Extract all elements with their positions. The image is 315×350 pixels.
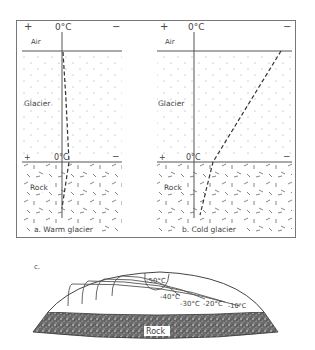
glacier-label: Glacier (158, 99, 185, 108)
zero-top-label: 0°C (188, 22, 205, 32)
minus-sign: − (283, 21, 291, 32)
panel-ice-sheet-cross-section: c. -50°C -40°C -30°C -20°C -10°C Rock (33, 263, 278, 339)
minus-sign: − (112, 21, 120, 32)
minus-bed: − (283, 151, 291, 161)
rock-layer (22, 162, 122, 232)
plus-bed: + (159, 153, 166, 162)
plus-bed: + (24, 153, 31, 162)
zero-top-label: 0°C (55, 22, 72, 32)
isotherm-label-40: -40°C (160, 293, 180, 301)
panel-warm-glacier: + 0°C − Air Glacier + 0°C − Rock a. Warm… (22, 21, 122, 235)
caption-warm: a. Warm glacier (34, 225, 94, 234)
air-label: Air (31, 38, 41, 46)
minus-bed: − (112, 151, 120, 161)
rock-label: Rock (164, 183, 183, 192)
glacier-temperature-figure: + 0°C − Air Glacier + 0°C − Rock a. Warm… (0, 0, 315, 350)
caption-cold: b. Cold glacier (182, 225, 237, 234)
plus-sign: + (160, 21, 168, 32)
panel-cold-glacier: + 0°C − Air Glacier + 0°C − Rock b. Cold… (157, 21, 292, 235)
isotherm-label-10: -10°C (228, 302, 247, 310)
isotherm-label-50: -50°C (146, 277, 166, 285)
isotherm-label-20: -20°C (203, 300, 223, 308)
zero-bed-label: 0°C (54, 153, 69, 162)
plus-sign: + (24, 21, 32, 32)
zero-bed-label: 0°C (186, 153, 201, 162)
panel-c-label: c. (34, 263, 40, 271)
air-label: Air (165, 38, 175, 46)
isotherm-label-30: -30°C (180, 300, 200, 308)
rock-label: Rock (30, 183, 49, 192)
rock-layer (157, 162, 292, 232)
glacier-label: Glacier (24, 99, 51, 108)
rock-bed-label: Rock (146, 327, 165, 336)
